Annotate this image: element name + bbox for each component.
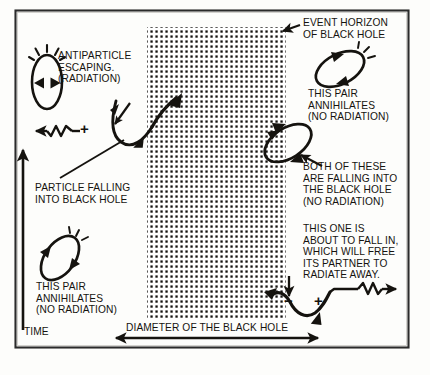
label-event-horizon: EVENT HORIZON OF BLACK HOLE [303,17,388,40]
label-particle-falling: PARTICLE FALLING INTO BLACK HOLE [35,182,130,205]
radiation-wave-left [36,126,80,136]
label-pair-annihilates-right: THIS PAIR ANNIHILATES (NO RADIATION) [308,88,389,123]
radiation-wave-right [330,283,396,294]
label-diameter-axis: DIAMETER OF THE BLACK HOLE [126,322,288,334]
label-pair-annihilates-left: THIS PAIR ANNIHILATES (NO RADIATION) [36,281,117,316]
black-hole-region [147,27,286,320]
charge-plus-upper-left: + [80,123,89,135]
diagram-canvas: ANTIPARTICLE ESCAPING. (RADIATION) PARTI… [0,0,430,375]
charge-plus-lower-right: + [314,295,323,307]
annihilation-burst-icon [69,227,88,240]
label-antiparticle-escaping: ANTIPARTICLE ESCAPING. (RADIATION) [58,50,131,85]
label-both-falling: BOTH OF THESE ARE FALLING INTO THE BLACK… [303,161,397,207]
virtual-pair-lower-left [33,227,88,287]
label-time-axis: TIME [24,326,49,338]
charge-minus-lower-right: − [284,295,293,307]
virtual-pair-upper-right [310,42,375,94]
label-about-to-fall-in: THIS ONE IS ABOUT TO FALL IN, WHICH WILL… [303,223,398,281]
